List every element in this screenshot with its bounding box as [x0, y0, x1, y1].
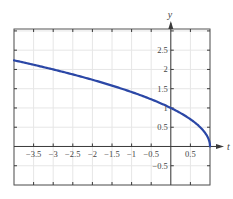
y-tick-label: −0.5: [152, 161, 167, 171]
x-tick-label: −3.5: [26, 149, 41, 159]
x-axis-arrow-icon: [216, 144, 224, 149]
x-tick-label: −1.5: [104, 149, 119, 159]
grid: [14, 29, 210, 185]
y-axis-label: y: [167, 9, 173, 20]
x-tick-label: 0.5: [185, 149, 196, 159]
x-axis-label: t: [227, 141, 230, 152]
x-tick-label: −1: [127, 149, 136, 159]
y-tick-label: 2: [164, 64, 168, 74]
chart: t y −3.5−3−2.5−2−1.5−1−0.50.5 −0.50.511.…: [0, 0, 233, 199]
x-tick-label: −0.5: [143, 149, 158, 159]
x-tick-label: −2.5: [65, 149, 80, 159]
y-tick-label: 0.5: [157, 122, 168, 132]
y-tick-label: 2.5: [157, 45, 168, 55]
x-tick-label: −2: [88, 149, 97, 159]
x-tick-label: −3: [49, 149, 58, 159]
y-tick-label: 1.5: [157, 84, 168, 94]
x-tick-labels: −3.5−3−2.5−2−1.5−1−0.50.5: [26, 149, 196, 159]
y-axis-arrow-icon: [168, 21, 173, 29]
